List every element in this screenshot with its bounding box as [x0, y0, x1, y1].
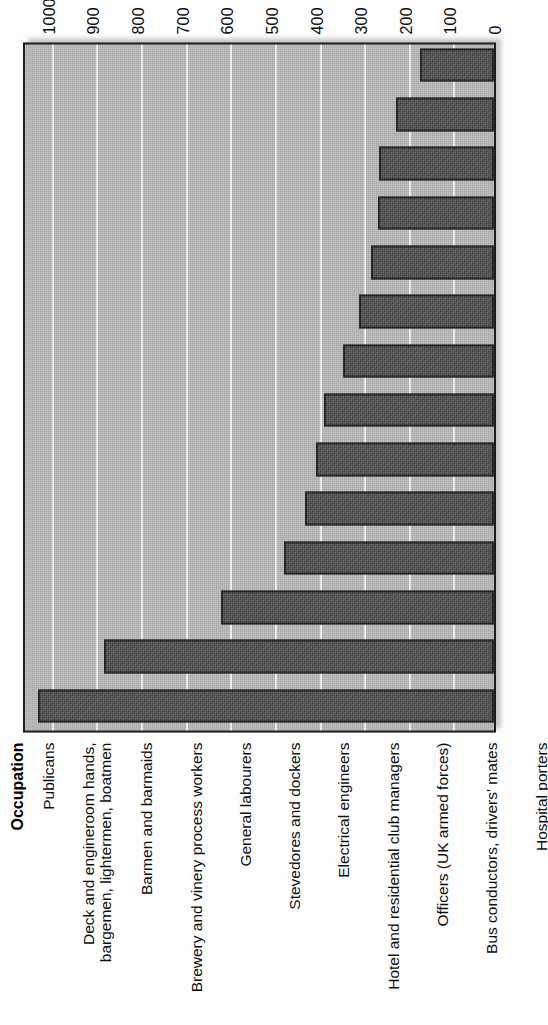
category-axis-tick-label: Deck and engineroom hands, bargemen, lig…	[80, 742, 114, 962]
bar	[284, 541, 494, 575]
bar	[343, 344, 494, 378]
bar	[316, 442, 494, 476]
category-axis-tick-label: Barmen and barmaids	[138, 742, 155, 895]
category-axis-tick-label: Hospital porters	[532, 742, 548, 851]
category-axis-tick-label: Bus conductors, drivers' mates	[483, 742, 500, 953]
value-axis-tick-label: 300	[353, 7, 371, 34]
bar	[420, 48, 494, 82]
category-axis-tick-label: Stevedores and dockers	[286, 742, 303, 909]
bar	[378, 196, 494, 230]
category-axis-tick-label: General labourers	[236, 742, 253, 866]
category-axis-tick-label: Electrical engineers	[335, 742, 352, 877]
bar	[396, 97, 494, 131]
value-axis-tick-label: 500	[264, 7, 282, 34]
category-axis-tick-label: Brewery and vinery process workers	[187, 742, 204, 992]
figure-page: SMR 100 01002003004005006007008009001000…	[0, 0, 548, 1025]
bar	[221, 590, 494, 624]
value-axis-tick-label: 900	[85, 7, 103, 34]
bar-chart: SMR 100 01002003004005006007008009001000…	[0, 0, 548, 1025]
value-axis-tick-label: 600	[219, 7, 237, 34]
value-axis-tick-label: 200	[398, 7, 416, 34]
bar	[38, 689, 494, 723]
value-axis-tick-label: 0	[487, 25, 505, 34]
bar	[371, 245, 494, 279]
value-axis-tick-label: 400	[309, 7, 327, 34]
category-axis-tick-label: Officers (UK armed forces)	[433, 742, 450, 926]
value-axis-tick-label: 800	[130, 7, 148, 34]
value-axis-tick-label: 1000	[41, 0, 59, 34]
value-axis: SMR 100 01002003004005006007008009001000	[23, 0, 496, 42]
bar-series	[25, 44, 494, 730]
bar	[359, 294, 494, 328]
bar	[305, 491, 494, 525]
bar	[104, 639, 494, 673]
value-axis-tick-label: 700	[175, 7, 193, 34]
bar	[379, 146, 494, 180]
category-axis-tick-label: Hotel and residential club managers	[384, 742, 401, 989]
category-axis-tick-label: Publicans	[39, 742, 56, 809]
category-axis: Occupation PublicansDeck and engineroom …	[23, 734, 496, 1025]
value-axis-tick-label: 100	[442, 7, 460, 34]
plot-area	[23, 42, 496, 732]
category-axis-title: Occupation	[9, 742, 27, 830]
rotated-figure-frame: SMR 100 01002003004005006007008009001000…	[0, 0, 548, 1025]
bar	[324, 393, 494, 427]
